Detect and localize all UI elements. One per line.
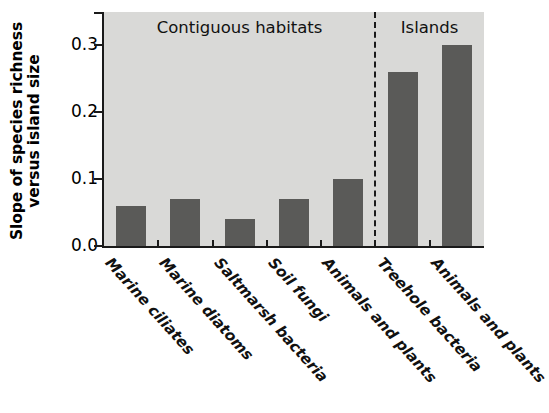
bar (279, 199, 309, 246)
x-axis-tick-label: Treehole bacteria (373, 254, 485, 376)
y-axis-title: Slope of species richness versus island … (0, 0, 52, 262)
y-axis-tick-label: 0.1 (54, 168, 98, 188)
y-axis-tick-label: 0.2 (54, 101, 98, 121)
x-axis-tick-mark (429, 240, 431, 248)
group-heading-contiguous-habitats: Contiguous habitats (157, 18, 323, 37)
x-axis-tick-mark (320, 240, 322, 248)
group-divider-line (374, 12, 376, 246)
x-axis-tick-mark (374, 240, 376, 248)
y-axis-tick-mark (94, 44, 103, 46)
x-axis-tick-mark (266, 240, 268, 248)
y-axis-tick-mark (94, 178, 103, 180)
group-heading-islands: Islands (401, 18, 459, 37)
bar (225, 219, 255, 246)
bar (170, 199, 200, 246)
y-axis-tick-label: 0.3 (54, 34, 98, 54)
bar (333, 179, 363, 246)
y-axis-line (102, 12, 104, 248)
y-axis-tick-mark (94, 111, 103, 113)
y-axis-tick-mark-top (94, 12, 103, 14)
y-axis-title-line1: Slope of species richness (8, 22, 26, 240)
x-axis-tick-mark (157, 240, 159, 248)
y-axis-title-text: Slope of species richness versus island … (9, 22, 44, 240)
x-axis-tick-mark (212, 240, 214, 248)
x-axis-tick-label: Marine diatoms (156, 254, 258, 364)
bar (388, 72, 418, 246)
bar (442, 45, 472, 246)
y-axis-tick-mark (94, 245, 103, 247)
x-axis-tick-labels: Marine ciliatesMarine diatomsSaltmarsh b… (0, 248, 484, 413)
y-axis-title-line2: versus island size (26, 22, 43, 240)
bar (116, 206, 146, 246)
plot-area: Contiguous habitatsIslands (104, 12, 484, 246)
